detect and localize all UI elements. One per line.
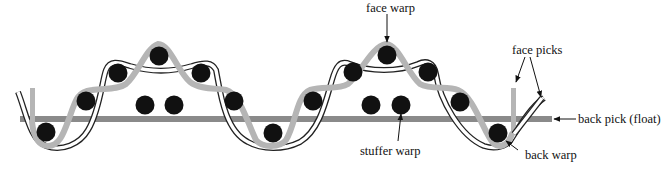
stuffer-warp-pick <box>362 96 381 115</box>
face-pick <box>451 93 470 112</box>
stuffer-warp-pick <box>165 96 184 115</box>
label-face-picks: face picks <box>512 43 562 57</box>
face-pick <box>225 92 244 111</box>
face-pick <box>344 63 363 82</box>
back-warp-pick <box>37 123 56 142</box>
picks <box>37 46 508 143</box>
face-pick <box>150 47 169 66</box>
face-pick-stub-left <box>30 88 35 122</box>
stuffer-warp-pick <box>136 96 155 115</box>
face-pick-stub-right <box>511 88 516 134</box>
label-stuffer-warp: stuffer warp <box>360 144 421 158</box>
face-picks-arrow-1 <box>516 57 525 82</box>
back-warp-pick <box>489 124 508 143</box>
stuffer-warp-pick <box>392 96 411 115</box>
face-pick <box>192 64 211 83</box>
face-pick <box>378 46 397 65</box>
back-pick-float-yarn <box>20 116 552 122</box>
face-pick <box>304 92 323 111</box>
face-pick <box>109 64 128 83</box>
label-back-pick-float: back pick (float) <box>578 112 661 126</box>
woven-fabric-cross-section: face warp face picks back pick (float) s… <box>0 0 665 169</box>
face-picks-arrow-2 <box>530 57 541 97</box>
label-back-warp: back warp <box>525 148 577 162</box>
face-pick <box>419 63 438 82</box>
back-warp-pick <box>264 124 283 143</box>
face-pick <box>77 92 96 111</box>
label-face-warp: face warp <box>366 1 415 15</box>
